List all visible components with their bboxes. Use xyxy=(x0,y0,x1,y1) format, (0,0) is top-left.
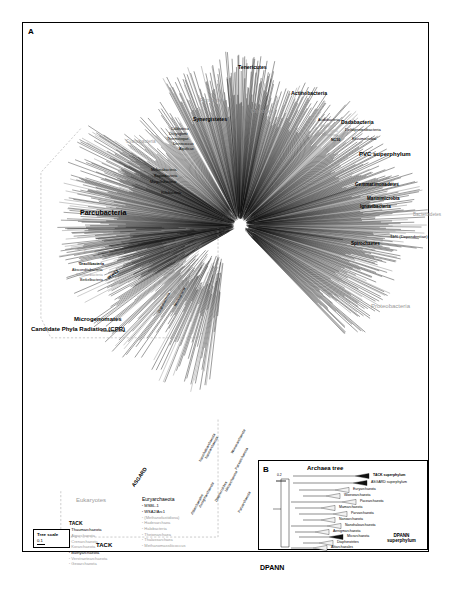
taxon-label: Bacteroidetes xyxy=(413,213,441,218)
panel-b-taxon-label: Nanohaloarchaeota xyxy=(345,523,376,527)
panel-b-taxon-label: TACK superphylum xyxy=(373,473,405,477)
taxon-label: TACK xyxy=(96,542,112,548)
taxon-label: NC10 xyxy=(331,139,340,143)
taxon-label: Margulisbacteria xyxy=(150,181,176,185)
panel-b: B Archaea tree 0.2 TACK superphylumASGAR… xyxy=(258,460,428,550)
taxon-label: Ignavibacteria xyxy=(360,205,391,210)
taxon-label: Synergistetes xyxy=(193,117,227,122)
taxon-label: Gracilibacteria xyxy=(79,263,104,267)
taxon-label: Acidobacteria xyxy=(318,119,340,123)
taxon-label: Riflebacteria xyxy=(161,192,181,196)
taxon-label: Berkelbacteria xyxy=(80,279,103,283)
panel-b-taxon-label: ASGARD superphylum xyxy=(371,480,407,484)
figure-root: A Candidate Phyla Radiation (CPR) TACK T… xyxy=(0,0,453,597)
panel-b-taxon-label: Pacearchaeota xyxy=(360,499,384,503)
taxon-label: Chloroflexi xyxy=(251,110,273,115)
taxon-label: Cyanobacteria xyxy=(126,140,156,145)
taxon-label: Melainabacteria xyxy=(151,169,176,173)
panel-b-taxon-label: Micrarchaeota xyxy=(347,534,369,538)
euryarchaeota-list: Euryarchaeota MSBL-1WSA2/Arc1(Methanofas… xyxy=(142,496,185,549)
taxon-label: Saganbacteria xyxy=(154,175,177,179)
taxon-label: Aquificae xyxy=(179,148,194,152)
panel-b-taxon-label: Woesearchaeota xyxy=(344,493,370,497)
tree-scale-bar xyxy=(37,544,45,545)
taxon-label: Proteobacteria xyxy=(371,303,410,309)
taxon-label: PVC superphylum xyxy=(359,151,411,157)
taxon-label: Zixibacteria xyxy=(359,190,380,194)
taxon-label: Nitrospinae xyxy=(320,125,336,128)
euryarchaeota-list-items: MSBL-1WSA2/Arc1(Methanofastidiosa)Hadesa… xyxy=(142,503,185,548)
panel-b-taxon-label: Parvarchaeota xyxy=(351,511,374,515)
panel-b-dpann-line2: superphylum xyxy=(387,538,416,543)
taxon-label: Spirochaetes xyxy=(351,242,380,247)
taxon-label: Actinobacteria xyxy=(291,91,327,96)
taxon-label: Katanobacteria xyxy=(101,330,125,334)
taxon-label: Elusimicrobia xyxy=(352,137,376,141)
taxon-label: Dadabacteria xyxy=(341,120,374,125)
taxon-label: Microgenomates xyxy=(74,316,122,322)
taxon-label: Firmicutes xyxy=(200,98,224,103)
tree-scale-title: Tree scale xyxy=(37,532,66,537)
taxon-label: Gemmatimonadetes xyxy=(355,183,399,188)
taxon-label: Deltaproteobacteria xyxy=(345,128,381,132)
panel-b-dpann-label: DPANN superphylum xyxy=(387,533,416,543)
taxon-label: Tenericutes xyxy=(238,65,267,70)
panel-b-taxon-label: Altiarchaeales xyxy=(331,545,353,549)
taxon-label: Eukaryotes xyxy=(76,497,106,503)
taxon-label: Marinimicrobia xyxy=(367,197,400,202)
tack-list-header: TACK xyxy=(69,520,107,526)
taxon-label: Peregrinibacteria xyxy=(80,257,107,261)
taxon-label: Parcubacteria xyxy=(80,209,126,216)
tree-scale-box: Tree scale 0.1 xyxy=(33,529,70,548)
taxon-label: DPANN xyxy=(260,564,284,571)
list-item: Methanomassiliicoccus xyxy=(142,543,185,549)
euryarchaeota-list-header: Euryarchaeota xyxy=(142,496,185,502)
panel-b-taxon-label: Diapherotrites xyxy=(337,540,359,544)
list-item: Geoarchaeota xyxy=(69,561,107,567)
tree-scale-value: 0.1 xyxy=(37,538,66,543)
taxon-label: TM6 (Dependentiae) xyxy=(390,235,428,239)
panel-b-taxon-label: Aenigmarchaeota xyxy=(333,529,360,533)
taxon-label: Doudnabacteria xyxy=(84,251,109,255)
panel-b-taxon-label: Nanoarchaeota xyxy=(339,517,363,521)
panel-b-taxon-label: Euryarchaeota xyxy=(353,487,376,491)
taxon-label: Nitrospirae xyxy=(322,134,337,137)
panel-b-taxon-label: Mamarchaeota xyxy=(339,505,362,509)
